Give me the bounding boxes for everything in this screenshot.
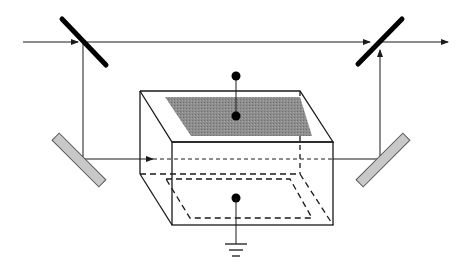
interferometer-diagram — [0, 0, 469, 270]
diagram-canvas — [0, 0, 469, 270]
mirror-right-icon — [356, 133, 410, 187]
terminal-top-icon — [232, 72, 241, 121]
mirror-left-icon — [52, 133, 106, 187]
